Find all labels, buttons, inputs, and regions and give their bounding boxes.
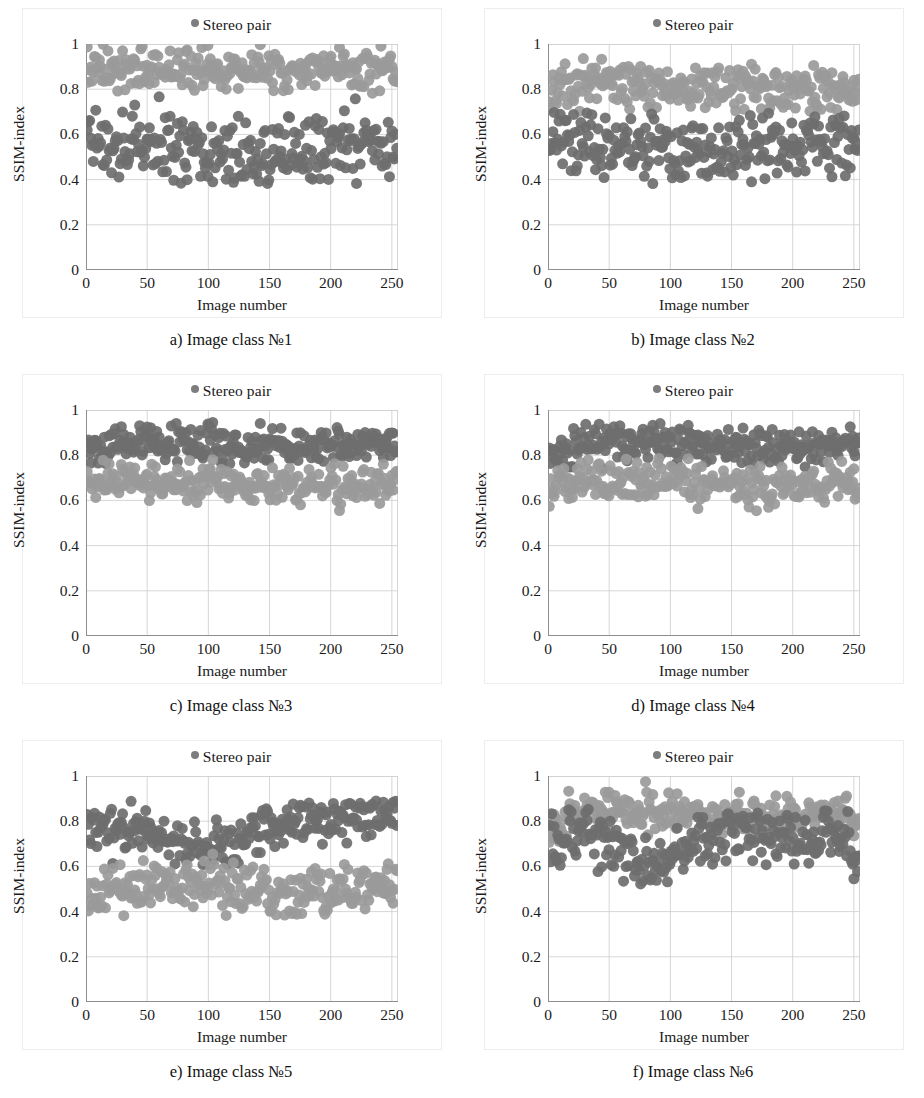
x-tick-label: 250 xyxy=(380,275,403,291)
y-tick-label: 0.6 xyxy=(522,126,541,142)
x-tick-label: 0 xyxy=(544,641,552,657)
legend-b: Stereo pair xyxy=(462,14,924,33)
legend-marker-icon xyxy=(653,385,661,393)
y-tick-label: 0 xyxy=(71,628,79,644)
x-tick-label: 50 xyxy=(139,641,155,657)
x-tick-label: 200 xyxy=(781,1007,804,1023)
x-tick-label: 150 xyxy=(720,275,743,291)
x-tick-label: 150 xyxy=(720,1007,743,1023)
y-tick-label: 1 xyxy=(533,36,541,52)
y-tick-label: 0.4 xyxy=(522,904,541,920)
x-tick-label: 250 xyxy=(842,1007,865,1023)
x-tick-label: 100 xyxy=(659,1007,682,1023)
x-tick-label: 200 xyxy=(319,1007,342,1023)
legend-label-d: Stereo pair xyxy=(665,382,734,399)
x-tick-label: 100 xyxy=(659,641,682,657)
legend-label-b: Stereo pair xyxy=(665,16,734,33)
y-tick-label: 1 xyxy=(533,402,541,418)
y-tick-label: 0.6 xyxy=(60,492,79,508)
y-tick-label: 1 xyxy=(71,768,79,784)
plot-area-e: 00.20.40.60.81050100150200250 xyxy=(86,776,398,1002)
y-axis-label-e: SSIM-index xyxy=(10,776,28,976)
x-tick-label: 200 xyxy=(319,641,342,657)
x-tick-label: 150 xyxy=(258,1007,281,1023)
scatter-series-upper xyxy=(86,44,398,99)
chart-panel-a: Stereo pair SSIM-index 00.20.40.60.81050… xyxy=(0,0,462,366)
x-tick-label: 250 xyxy=(842,275,865,291)
panel-caption-b: b) Image class №2 xyxy=(462,330,924,349)
y-axis-label-d: SSIM-index xyxy=(472,410,490,610)
legend-a: Stereo pair xyxy=(0,14,462,33)
panel-caption-e: e) Image class №5 xyxy=(0,1062,462,1081)
x-axis-label-a: Image number xyxy=(86,296,398,313)
x-tick-label: 100 xyxy=(197,641,220,657)
y-tick-label: 0 xyxy=(71,994,79,1010)
y-tick-label: 0.2 xyxy=(60,949,79,965)
x-tick-label: 200 xyxy=(781,275,804,291)
panel-caption-c: c) Image class №3 xyxy=(0,696,462,715)
y-tick-label: 0.4 xyxy=(522,172,541,188)
x-tick-label: 250 xyxy=(380,1007,403,1023)
scatter-canvas xyxy=(86,410,398,636)
y-tick-label: 1 xyxy=(71,36,79,52)
y-tick-label: 0.2 xyxy=(60,217,79,233)
legend-marker-icon xyxy=(191,385,199,393)
scatter-canvas xyxy=(548,410,860,636)
y-tick-label: 0.8 xyxy=(522,813,541,829)
legend-label-c: Stereo pair xyxy=(203,382,272,399)
y-tick-label: 0.6 xyxy=(522,858,541,874)
chart-panel-d: Stereo pair SSIM-index 00.20.40.60.81050… xyxy=(462,366,924,732)
y-tick-label: 0.6 xyxy=(522,492,541,508)
x-tick-label: 0 xyxy=(82,275,90,291)
chart-panel-c: Stereo pair SSIM-index 00.20.40.60.81050… xyxy=(0,366,462,732)
legend-marker-icon xyxy=(653,751,661,759)
legend-c: Stereo pair xyxy=(0,380,462,399)
x-tick-label: 0 xyxy=(82,1007,90,1023)
scatter-series-lower xyxy=(548,107,860,189)
panel-caption-a: a) Image class №1 xyxy=(0,330,462,349)
y-tick-label: 0.4 xyxy=(522,538,541,554)
x-tick-label: 0 xyxy=(82,641,90,657)
x-tick-label: 50 xyxy=(601,1007,617,1023)
chart-panel-e: Stereo pair SSIM-index 00.20.40.60.81050… xyxy=(0,732,462,1098)
legend-label-e: Stereo pair xyxy=(203,748,272,765)
x-tick-label: 150 xyxy=(258,641,281,657)
y-tick-label: 0.8 xyxy=(60,447,79,463)
chart-panel-f: Stereo pair SSIM-index 00.20.40.60.81050… xyxy=(462,732,924,1098)
y-tick-label: 0.2 xyxy=(522,583,541,599)
scatter-canvas xyxy=(548,776,860,1002)
scatter-canvas xyxy=(86,776,398,1002)
y-axis-label-a: SSIM-index xyxy=(10,44,28,244)
x-tick-label: 50 xyxy=(139,275,155,291)
x-tick-label: 100 xyxy=(197,1007,220,1023)
legend-label-a: Stereo pair xyxy=(203,16,272,33)
scatter-series-upper xyxy=(86,417,398,469)
panel-caption-d: d) Image class №4 xyxy=(462,696,924,715)
y-tick-label: 0.8 xyxy=(60,813,79,829)
plot-area-a: 00.20.40.60.81050100150200250 xyxy=(86,44,398,270)
y-tick-label: 0.2 xyxy=(522,217,541,233)
y-tick-label: 0.4 xyxy=(60,538,79,554)
x-tick-label: 100 xyxy=(197,275,220,291)
legend-marker-icon xyxy=(653,19,661,27)
scatter-series-lower xyxy=(86,91,398,189)
plot-area-f: 00.20.40.60.81050100150200250 xyxy=(548,776,860,1002)
y-tick-label: 0.6 xyxy=(60,858,79,874)
chart-panel-b: Stereo pair SSIM-index 00.20.40.60.81050… xyxy=(462,0,924,366)
plot-area-d: 00.20.40.60.81050100150200250 xyxy=(548,410,860,636)
x-axis-label-b: Image number xyxy=(548,296,860,313)
scatter-series-upper xyxy=(548,53,860,117)
x-tick-label: 200 xyxy=(319,275,342,291)
x-axis-label-f: Image number xyxy=(548,1028,860,1045)
legend-label-f: Stereo pair xyxy=(665,748,734,765)
panel-caption-f: f) Image class №6 xyxy=(462,1062,924,1081)
y-tick-label: 0 xyxy=(533,994,541,1010)
y-axis-label-f: SSIM-index xyxy=(472,776,490,976)
y-axis-label-c: SSIM-index xyxy=(10,410,28,610)
x-tick-label: 250 xyxy=(380,641,403,657)
x-tick-label: 150 xyxy=(258,275,281,291)
figure-grid: Stereo pair SSIM-index 00.20.40.60.81050… xyxy=(0,0,924,1098)
x-axis-label-c: Image number xyxy=(86,662,398,679)
y-tick-label: 0 xyxy=(533,628,541,644)
legend-d: Stereo pair xyxy=(462,380,924,399)
